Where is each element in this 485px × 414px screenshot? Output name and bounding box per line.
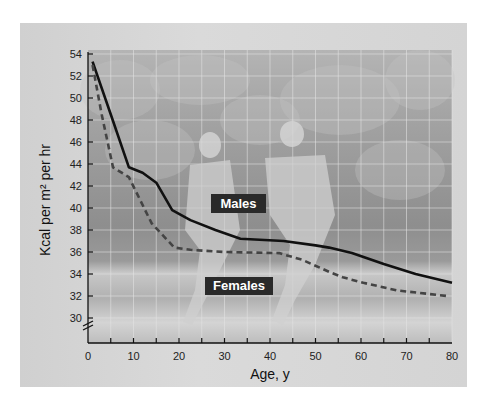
x-tick-label: 40 (264, 350, 276, 362)
y-tick-label: 34 (70, 268, 82, 280)
svg-text:Males: Males (220, 196, 256, 211)
y-tick-label: 54 (70, 48, 82, 60)
x-tick-label: 10 (127, 350, 139, 362)
svg-text:Females: Females (213, 278, 265, 293)
y-tick-label: 52 (70, 70, 82, 82)
females-label: Females (205, 277, 273, 295)
y-tick-label: 48 (70, 114, 82, 126)
x-tick-label: 30 (218, 350, 230, 362)
y-tick-label: 32 (70, 290, 82, 302)
x-tick-label: 50 (309, 350, 321, 362)
y-tick-label: 30 (70, 312, 82, 324)
x-tick-label: 0 (85, 350, 91, 362)
x-tick-label: 60 (355, 350, 367, 362)
x-axis-title: Age, y (250, 366, 290, 382)
y-tick-label: 36 (70, 246, 82, 258)
y-tick-label: 42 (70, 180, 82, 192)
y-tick-label: 44 (70, 158, 82, 170)
y-tick-label: 50 (70, 92, 82, 104)
y-tick-label: 38 (70, 224, 82, 236)
y-axis-title: Kcal per m² per hr (37, 144, 53, 256)
y-tick-label: 40 (70, 202, 82, 214)
chart: 3032343638404244464850525401020304050607… (0, 0, 485, 414)
x-tick-label: 70 (400, 350, 412, 362)
x-tick-label: 80 (446, 350, 458, 362)
y-tick-label: 46 (70, 136, 82, 148)
males-label: Males (211, 194, 266, 213)
x-tick-label: 20 (173, 350, 185, 362)
plot-background-photo (80, 50, 455, 343)
